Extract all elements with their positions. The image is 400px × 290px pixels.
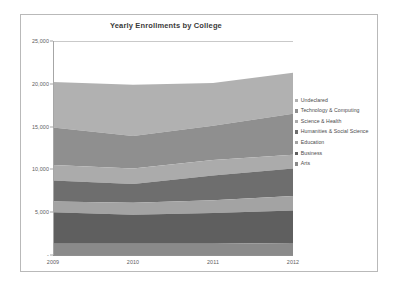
stacked-area-canvas — [53, 41, 293, 255]
x-axis-line — [53, 255, 293, 256]
chart-legend: UndeclaredTechnology & ComputingScience … — [295, 95, 375, 169]
legend-swatch-icon — [295, 109, 298, 112]
legend-item[interactable]: Undeclared — [295, 95, 375, 106]
stacked-area-svg — [53, 41, 293, 255]
legend-label: Education — [301, 140, 325, 145]
legend-item[interactable]: Education — [295, 137, 375, 148]
legend-item[interactable]: Arts — [295, 159, 375, 170]
y-tick-mark — [50, 169, 53, 170]
y-tick-label: 10,000 — [32, 166, 49, 172]
legend-label: Humanities & Social Science — [301, 129, 369, 134]
legend-swatch-icon — [295, 99, 298, 102]
screenshot-root: Yearly Enrollments by College 25,00020,0… — [0, 0, 400, 290]
y-tick-label: 25,000 — [32, 38, 49, 44]
chart-title: Yearly Enrollments by College — [21, 21, 311, 30]
y-axis-line — [53, 41, 54, 256]
y-tick-label: 15,000 — [32, 124, 49, 130]
legend-label: Science & Health — [301, 119, 342, 124]
legend-label: Business — [301, 151, 322, 156]
legend-item[interactable]: Humanities & Social Science — [295, 127, 375, 138]
x-tick-label: 2011 — [207, 259, 219, 265]
y-tick-mark — [50, 41, 53, 42]
y-tick-label: - — [47, 252, 49, 258]
legend-swatch-icon — [295, 152, 298, 155]
legend-label: Technology & Computing — [301, 108, 360, 113]
y-tick-label: 20,000 — [32, 81, 49, 87]
y-tick-mark — [50, 255, 53, 256]
legend-item[interactable]: Business — [295, 148, 375, 159]
legend-swatch-icon — [295, 141, 298, 144]
plot-area: 25,00020,00015,00010,0005,000- 200920102… — [53, 37, 293, 263]
legend-label: Undeclared — [301, 98, 328, 103]
legend-swatch-icon — [295, 120, 298, 123]
area-band — [53, 210, 293, 243]
x-tick-label: 2010 — [127, 259, 139, 265]
legend-item[interactable]: Science & Health — [295, 116, 375, 127]
legend-swatch-icon — [295, 130, 298, 133]
legend-label: Arts — [301, 161, 310, 166]
chart-frame: Yearly Enrollments by College 25,00020,0… — [20, 14, 378, 272]
x-tick-label: 2012 — [287, 259, 299, 265]
y-tick-mark — [50, 83, 53, 84]
legend-swatch-icon — [295, 162, 298, 165]
x-tick-label: 2009 — [47, 259, 59, 265]
y-tick-mark — [50, 126, 53, 127]
y-tick-label: 5,000 — [35, 209, 49, 215]
legend-item[interactable]: Technology & Computing — [295, 106, 375, 117]
area-band — [53, 243, 293, 255]
y-tick-mark — [50, 212, 53, 213]
